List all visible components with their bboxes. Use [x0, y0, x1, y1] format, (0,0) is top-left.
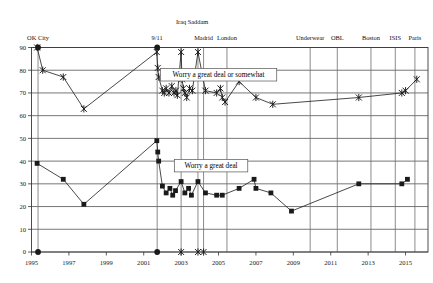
svg-text:Paris: Paris: [409, 34, 422, 41]
svg-text:1999: 1999: [100, 259, 114, 266]
svg-text:9/11: 9/11: [152, 34, 163, 41]
svg-text:Underwear: Underwear: [296, 34, 325, 41]
svg-text:2013: 2013: [362, 259, 376, 266]
svg-text:2015: 2015: [399, 259, 413, 266]
svg-text:2005: 2005: [212, 259, 226, 266]
svg-text:80: 80: [19, 67, 26, 74]
svg-text:London: London: [217, 34, 238, 41]
svg-text:2011: 2011: [324, 259, 337, 266]
svg-text:Madrid: Madrid: [194, 34, 214, 41]
chart-container: 0102030405060708090 19951997199920012003…: [0, 0, 433, 283]
svg-text:2009: 2009: [287, 259, 301, 266]
svg-text:60: 60: [19, 112, 26, 119]
svg-text:1997: 1997: [62, 259, 76, 266]
svg-text:0: 0: [23, 248, 27, 255]
x-axis-ticks: 1995199719992001200320052007200920112013…: [25, 252, 413, 266]
svg-text:2001: 2001: [137, 259, 150, 266]
svg-text:Worry a great deal: Worry a great deal: [184, 162, 237, 170]
svg-text:Boston: Boston: [362, 34, 381, 41]
svg-text:OK City: OK City: [27, 34, 50, 41]
worry-terrorism-line-chart: 0102030405060708090 19951997199920012003…: [0, 0, 433, 283]
svg-text:Iraq: Iraq: [176, 18, 187, 25]
svg-text:1995: 1995: [25, 259, 39, 266]
svg-text:40: 40: [19, 158, 26, 165]
svg-text:OBL: OBL: [331, 34, 344, 41]
svg-text:50: 50: [19, 135, 26, 142]
series-legend-labels: Worry a great deal or somewhatWorry a gr…: [160, 69, 276, 172]
svg-text:ISIS: ISIS: [390, 34, 402, 41]
event-annotations: OK City9/11IraqSaddamMadridLondonUnderwe…: [27, 18, 422, 41]
svg-text:2003: 2003: [175, 259, 189, 266]
svg-text:Worry a great deal or somewhat: Worry a great deal or somewhat: [173, 71, 265, 79]
svg-text:10: 10: [19, 226, 26, 233]
svg-text:20: 20: [19, 203, 26, 210]
y-axis-ticks: 0102030405060708090: [19, 44, 31, 256]
svg-text:Saddam: Saddam: [188, 18, 209, 25]
svg-text:2007: 2007: [249, 259, 263, 266]
svg-text:90: 90: [19, 44, 26, 51]
svg-text:70: 70: [19, 89, 26, 96]
svg-text:30: 30: [19, 180, 26, 187]
